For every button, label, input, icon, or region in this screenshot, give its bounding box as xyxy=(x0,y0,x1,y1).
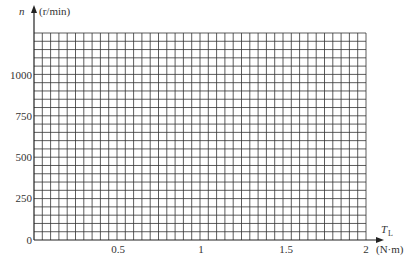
y-tick-750: 750 xyxy=(16,110,33,122)
grid-lines xyxy=(34,33,366,240)
origin-label: 0 xyxy=(27,234,33,246)
x-tick-2: 2 xyxy=(363,243,369,255)
x-tick-0.5: 0.5 xyxy=(111,243,125,255)
x-tick-1: 1 xyxy=(198,243,204,255)
x-tick-1.5: 1.5 xyxy=(279,243,293,255)
y-axis-symbol: n xyxy=(19,5,25,17)
x-axis-unit: (N·m) xyxy=(376,243,404,256)
y-tick-500: 500 xyxy=(16,151,33,163)
x-axis-subscript: L xyxy=(388,229,393,238)
y-axis-unit: (r/min) xyxy=(39,5,70,18)
y-tick-250: 250 xyxy=(16,192,33,204)
x-axis-symbol: T xyxy=(381,223,388,235)
chart-canvas: n (r/min) 1000 750 500 250 0 0.5 1 1.5 2… xyxy=(0,0,415,264)
y-tick-1000: 1000 xyxy=(10,69,33,81)
y-axis-arrow-icon xyxy=(31,5,37,13)
